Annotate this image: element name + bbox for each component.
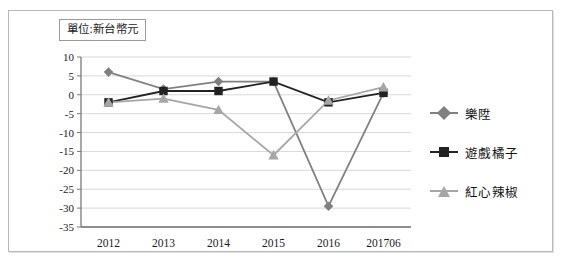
legend: 樂陞 遊戲橘子 紅心辣椒 <box>430 97 545 214</box>
chart-frame: 單位:新台幣元 1050-5-10-15-20-25-30-35 2012201… <box>8 10 553 252</box>
series-line <box>109 87 384 155</box>
y-axis-tick-label: -20 <box>59 164 74 176</box>
y-axis-tick-label: -30 <box>59 202 74 214</box>
legend-item-label: 樂陞 <box>465 104 492 123</box>
x-axis-category-label: 2013 <box>152 237 175 249</box>
diamond-marker-icon <box>430 106 458 120</box>
x-axis-category-label: 201706 <box>366 237 401 249</box>
gridlines <box>81 57 411 227</box>
y-axis-tick-label: 0 <box>69 89 75 101</box>
axes <box>77 57 411 227</box>
data-point-diamond <box>324 201 334 211</box>
y-axis-tick-labels: 1050-5-10-15-20-25-30-35 <box>59 51 74 233</box>
y-axis-tick-label: -5 <box>65 108 75 120</box>
y-axis-tick-label: -25 <box>59 183 74 195</box>
y-axis-tick-label: 10 <box>63 51 75 63</box>
legend-item-label: 遊戲橘子 <box>465 143 519 162</box>
y-axis-tick-label: 5 <box>69 70 75 82</box>
x-axis-category-labels: 20122013201420152016201706 <box>97 237 401 249</box>
data-point-square <box>214 87 222 95</box>
legend-item[interactable]: 遊戲橘子 <box>430 136 545 168</box>
x-axis-category-label: 2016 <box>317 237 340 249</box>
square-marker-icon <box>430 145 458 159</box>
series-line <box>109 72 384 206</box>
y-axis-tick-label: -10 <box>59 127 74 139</box>
legend-item[interactable]: 樂陞 <box>430 97 545 129</box>
x-axis-category-label: 2012 <box>97 237 120 249</box>
legend-item-label: 紅心辣椒 <box>465 182 519 201</box>
x-axis-category-label: 2015 <box>262 237 285 249</box>
series-lines <box>109 72 384 206</box>
triangle-marker-icon <box>430 184 458 198</box>
legend-item[interactable]: 紅心辣椒 <box>430 175 545 207</box>
x-axis-category-label: 2014 <box>207 237 230 249</box>
data-point-diamond <box>214 77 224 87</box>
data-point-square <box>269 77 277 85</box>
y-axis-tick-label: -35 <box>59 221 74 233</box>
data-point-triangle <box>378 82 388 91</box>
y-axis-tick-label: -15 <box>59 145 74 157</box>
